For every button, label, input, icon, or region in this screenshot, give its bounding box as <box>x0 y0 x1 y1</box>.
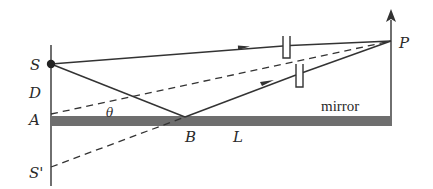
direct-ray-segment-2 <box>290 41 391 46</box>
incident-ray <box>51 64 185 117</box>
reflected-ray-segment-1 <box>185 75 296 117</box>
mirror-surface <box>51 116 391 126</box>
reflected-ray-phase-marker <box>296 64 303 87</box>
lloyds-mirror-diagram: S D A S' θ B L P mirror <box>0 0 433 189</box>
reflected-ray-arrow-icon <box>260 80 274 86</box>
label-b: B <box>184 128 196 146</box>
label-a: A <box>27 111 40 129</box>
label-l: L <box>232 128 243 146</box>
label-p: P <box>398 34 410 52</box>
source-point-s <box>47 60 55 68</box>
label-d: D <box>28 84 41 102</box>
reflected-ray-segment-2 <box>303 41 391 73</box>
label-mirror: mirror <box>321 98 359 114</box>
label-theta: θ <box>106 106 114 120</box>
label-s: S <box>30 56 40 74</box>
direct-ray-segment-1 <box>51 46 283 64</box>
direct-ray-phase-marker <box>283 36 290 58</box>
label-s-prime: S' <box>29 164 43 182</box>
